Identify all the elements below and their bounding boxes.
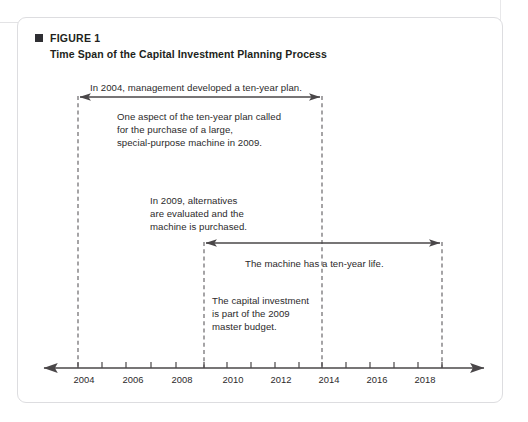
note-plan-aspect: One aspect of the ten-year plan called f…	[117, 110, 281, 150]
note-alternatives-2009: In 2009, alternatives are evaluated and …	[150, 194, 247, 234]
note-ten-year-plan: In 2004, management developed a ten-year…	[90, 81, 302, 94]
figure-frame	[17, 17, 503, 403]
figure-title: Time Span of the Capital Investment Plan…	[50, 48, 455, 60]
note-machine-life: The machine has a ten-year life.	[245, 257, 384, 270]
figure-label: FIGURE 1	[50, 32, 100, 44]
figure-caption: FIGURE 1 Time Span of the Capital Invest…	[35, 31, 455, 60]
filled-square-icon	[35, 34, 43, 42]
note-capital-investment: The capital investment is part of the 20…	[212, 294, 309, 334]
figure-caption-line: FIGURE 1	[35, 31, 455, 45]
